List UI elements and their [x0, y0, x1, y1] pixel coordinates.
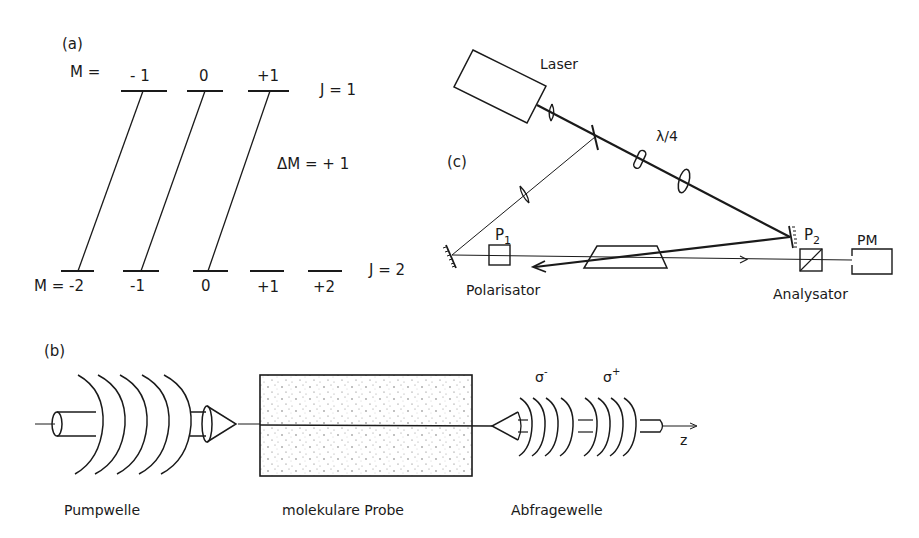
lower-m-value: 0	[201, 279, 211, 294]
probe-arrowhead	[740, 256, 747, 263]
transition-line	[141, 91, 205, 271]
upper-m-value: +1	[257, 69, 279, 84]
sigma-minus-helix	[519, 398, 573, 456]
pm-label: PM	[857, 233, 878, 247]
panel-a-label: (a)	[62, 37, 83, 52]
sigma-minus-label: σ-	[535, 370, 547, 384]
analyzer-label: Analysator	[773, 287, 848, 301]
polarizer-p1	[489, 245, 510, 265]
p2-label: P2	[804, 228, 820, 243]
pump-probe-schematic	[35, 375, 697, 476]
lower-m-value: +2	[313, 280, 335, 295]
lower-j-label: J = 2	[369, 263, 405, 278]
upper-j-label: J = 1	[320, 83, 356, 98]
upper-m-value: 0	[199, 69, 209, 84]
probe-lens	[520, 186, 529, 203]
p1-label: P1	[495, 228, 511, 243]
lower-m-value: -1	[130, 279, 145, 294]
photomultiplier	[852, 249, 892, 274]
laser-label: Laser	[540, 57, 578, 71]
lower-m-value: +1	[257, 280, 279, 295]
probe-wave-label: Abfragewelle	[511, 503, 603, 517]
pump-beam	[535, 237, 790, 267]
probe-arrow-cone	[492, 412, 518, 440]
sample-label: molekulare Probe	[282, 503, 404, 517]
transition-line	[208, 91, 270, 271]
z-axis-label: z	[680, 433, 687, 447]
upper-m-prefix: M =	[70, 65, 100, 80]
delta-m-label: ΔM = + 1	[277, 157, 349, 172]
upper-m-value: - 1	[130, 69, 150, 84]
panel-c-label: (c)	[447, 155, 467, 170]
pump-wave-label: Pumpwelle	[64, 503, 140, 517]
panel-b-label: (b)	[44, 344, 65, 359]
lower-m-prefix: M = -2	[34, 279, 84, 294]
sigma-plus-label: σ+	[603, 370, 620, 384]
left-mirror	[446, 245, 456, 268]
laser-box	[454, 50, 546, 123]
quarter-wave-label: λ/4	[656, 129, 678, 143]
transition-line	[78, 91, 143, 271]
polarizer-label: Polarisator	[466, 283, 540, 297]
laser-beam	[537, 105, 790, 237]
pump-helix	[75, 375, 191, 474]
energy-level-diagram	[61, 91, 342, 271]
probe-cylinder	[640, 420, 663, 432]
probe-beam	[452, 255, 852, 260]
sigma-plus-helix	[584, 398, 636, 456]
